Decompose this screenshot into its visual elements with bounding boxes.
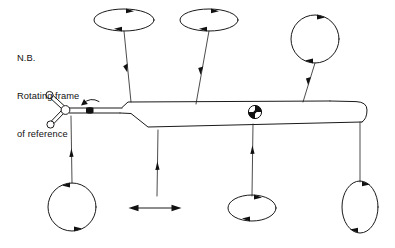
leader-line-to-mode-3 — [303, 63, 315, 102]
note-line-2: Rotating frame — [17, 90, 79, 103]
oscillation-ellipse-bottom-right — [228, 195, 276, 222]
oscillation-ellipse-far-right — [342, 181, 378, 233]
oscillation-ellipse-top-left — [94, 9, 154, 32]
oscillation-circle-top-right — [291, 15, 339, 64]
note-line-3: of reference — [17, 128, 79, 141]
oscillation-arrow-bottom-middle — [129, 205, 182, 211]
rotor-rotation-arrow — [81, 99, 99, 106]
leader-line-to-mode-2 — [196, 31, 209, 104]
leader-line-to-mode-1 — [123, 31, 131, 102]
leader-line-to-mode-5 — [155, 130, 159, 196]
oscillation-circle-bottom-left — [48, 183, 96, 232]
leader-line-to-mode-6 — [250, 124, 254, 196]
rotating-frame-note: N.B. Rotating frame of reference — [17, 27, 79, 166]
vibration-modes-diagram: N.B. Rotating frame of reference — [0, 0, 395, 248]
note-line-1: N.B. — [17, 52, 79, 65]
oscillation-ellipse-top-middle — [180, 9, 238, 32]
center-of-gravity-marker — [248, 105, 261, 118]
fuselage — [120, 101, 367, 127]
